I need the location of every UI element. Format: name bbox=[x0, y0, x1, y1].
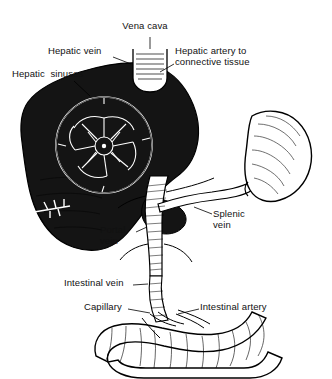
leader-portal-vein bbox=[136, 227, 147, 232]
leader-splenic-vein bbox=[194, 207, 212, 214]
label-hepatic-vein: Hepatic vein bbox=[48, 45, 101, 56]
spleen bbox=[245, 111, 312, 201]
label-hepatic-artery-to-connective-tissue: Hepatic artery to connective tissue bbox=[175, 45, 250, 67]
intestinal-artery-vessel bbox=[176, 310, 210, 328]
label-vena-cava: Vena cava bbox=[100, 20, 190, 31]
hepatic-sinuses-inset bbox=[56, 97, 152, 193]
label-intestinal-artery: Intestinal artery bbox=[200, 301, 267, 312]
label-portal-vein: Portal vein bbox=[100, 224, 125, 246]
leader-capillary bbox=[128, 309, 150, 313]
label-splenic-vein: Splenic vein bbox=[213, 208, 245, 230]
label-capillary: Capillary bbox=[84, 301, 122, 312]
leader-intestinal-vein bbox=[133, 284, 148, 285]
label-intestinal-vein: Intestinal vein bbox=[64, 277, 124, 288]
intestine bbox=[95, 276, 282, 378]
diagram-artwork bbox=[0, 0, 332, 379]
anatomical-diagram: Vena cava Hepatic vein Hepatic artery to… bbox=[0, 0, 332, 379]
label-hepatic-sinuses: Hepatic sinuses bbox=[12, 68, 83, 79]
